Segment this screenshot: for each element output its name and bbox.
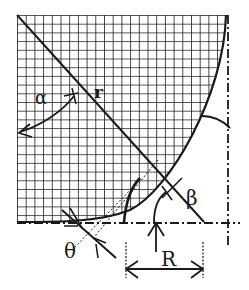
fillet-geometry-diagram: α r β θ R [0,0,249,290]
R-label: R [161,247,177,271]
beta-label: β [186,186,198,210]
right-curvature-arc [202,116,230,128]
r-label: r [94,82,104,102]
alpha-label: α [35,87,47,108]
beta-tick-icon [162,178,182,200]
theta-label: θ [64,239,76,263]
